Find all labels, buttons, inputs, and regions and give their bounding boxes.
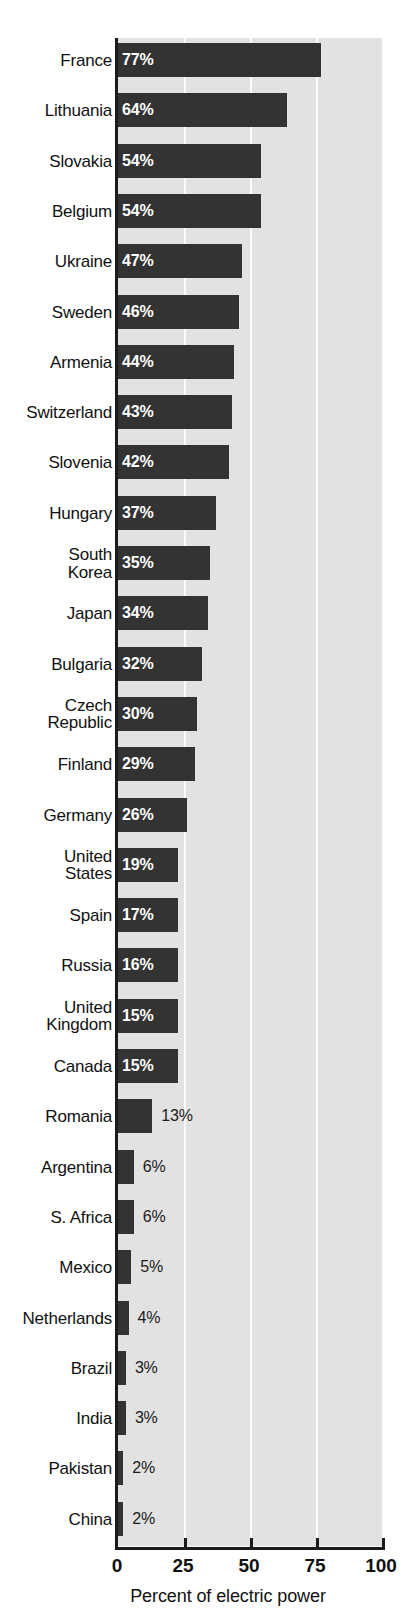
bar-row: Slovakia54% [0, 144, 420, 178]
bar-value-label: 15% [122, 1007, 153, 1024]
bar-value-label: 3% [135, 1359, 158, 1376]
bar-value-label: 77% [122, 51, 153, 68]
x-tick-label-50: 50 [219, 1556, 279, 1576]
bar-value-label: 42% [122, 453, 153, 470]
bar-row: Russia16% [0, 948, 420, 982]
category-label: Ukraine [0, 253, 112, 270]
bar-row: Germany26% [0, 798, 420, 832]
x-tick-label-100: 100 [351, 1556, 411, 1576]
bar-row: France77% [0, 43, 420, 77]
bar-row: Sweden46% [0, 295, 420, 329]
bar-row: Argentina6% [0, 1150, 420, 1184]
bar-value-label: 64% [122, 101, 153, 118]
bar-value-label: 35% [122, 554, 153, 571]
x-axis-title: Percent of electric power [0, 1586, 420, 1606]
bar-row: United Kingdom15% [0, 999, 420, 1033]
bar-row: Brazil3% [0, 1351, 420, 1385]
bar-row: Bulgaria32% [0, 647, 420, 681]
category-label: Russia [0, 957, 112, 974]
category-label: United States [0, 848, 112, 883]
bar [118, 1250, 131, 1284]
bar-value-label: 32% [122, 655, 153, 672]
bar [118, 1099, 152, 1133]
bar-value-label: 4% [138, 1309, 161, 1326]
bar [118, 1401, 126, 1435]
category-label: Sweden [0, 304, 112, 321]
bar-value-label: 54% [122, 152, 153, 169]
bar-value-label: 43% [122, 403, 153, 420]
category-label: Switzerland [0, 404, 112, 421]
bar-row: Slovenia42% [0, 445, 420, 479]
bar-row: Spain17% [0, 898, 420, 932]
bar-row: Armenia44% [0, 345, 420, 379]
bar-value-label: 3% [135, 1409, 158, 1426]
bar-value-label: 13% [161, 1107, 192, 1124]
bar [118, 1451, 123, 1485]
bar-value-label: 54% [122, 202, 153, 219]
category-label: Romania [0, 1108, 112, 1125]
bar-row: Japan34% [0, 596, 420, 630]
category-label: Germany [0, 807, 112, 824]
category-label: Slovenia [0, 454, 112, 471]
category-label: Netherlands [0, 1310, 112, 1327]
category-label: Czech Republic [0, 697, 112, 732]
x-tick-label-0: 0 [87, 1556, 147, 1576]
bar-row: Hungary37% [0, 496, 420, 530]
bar-row: Switzerland43% [0, 395, 420, 429]
bar-row: India3% [0, 1401, 420, 1435]
bar-row: Czech Republic30% [0, 697, 420, 731]
bar-row: Pakistan2% [0, 1451, 420, 1485]
bar-value-label: 46% [122, 303, 153, 320]
bar-row: South Korea35% [0, 546, 420, 580]
bar-row: Belgium54% [0, 194, 420, 228]
bar-value-label: 16% [122, 956, 153, 973]
bar-value-label: 30% [122, 705, 153, 722]
x-tick-label-25: 25 [153, 1556, 213, 1576]
bar-row: Mexico5% [0, 1250, 420, 1284]
category-label: South Korea [0, 546, 112, 581]
category-label: France [0, 52, 112, 69]
category-label: Brazil [0, 1360, 112, 1377]
bar-value-label: 44% [122, 353, 153, 370]
category-label: United Kingdom [0, 999, 112, 1034]
bar-value-label: 2% [132, 1510, 155, 1527]
bar-value-label: 19% [122, 856, 153, 873]
bar-value-label: 2% [132, 1459, 155, 1476]
bar-row: Ukraine47% [0, 244, 420, 278]
category-label: Spain [0, 907, 112, 924]
x-tick-mark-75 [316, 1538, 319, 1548]
y-axis-line [115, 38, 118, 1550]
bar-value-label: 5% [140, 1258, 163, 1275]
category-label: Finland [0, 756, 112, 773]
bar [118, 1502, 123, 1536]
category-label: Mexico [0, 1259, 112, 1276]
bar-row: China2% [0, 1502, 420, 1536]
x-tick-mark-0 [115, 1538, 118, 1550]
category-label: S. Africa [0, 1209, 112, 1226]
bar-row: Canada15% [0, 1049, 420, 1083]
category-label: Armenia [0, 354, 112, 371]
bar-value-label: 47% [122, 252, 153, 269]
category-label: Japan [0, 605, 112, 622]
x-tick-mark-50 [250, 1538, 253, 1548]
category-label: Argentina [0, 1159, 112, 1176]
bar-value-label: 17% [122, 906, 153, 923]
bar [118, 1200, 134, 1234]
bar-row: Finland29% [0, 747, 420, 781]
bar [118, 1351, 126, 1385]
category-label: Hungary [0, 505, 112, 522]
category-label: Belgium [0, 203, 112, 220]
x-tick-mark-100 [382, 1538, 385, 1550]
bar-row: United States19% [0, 848, 420, 882]
bar [118, 1150, 134, 1184]
bar-value-label: 6% [143, 1208, 166, 1225]
category-label: Slovakia [0, 153, 112, 170]
category-label: India [0, 1410, 112, 1427]
nuclear-share-bar-chart: France77%Lithuania64%Slovakia54%Belgium5… [0, 0, 420, 1624]
bar-value-label: 34% [122, 604, 153, 621]
x-tick-label-75: 75 [285, 1556, 345, 1576]
bar-value-label: 15% [122, 1057, 153, 1074]
category-label: Bulgaria [0, 656, 112, 673]
category-label: Canada [0, 1058, 112, 1075]
bar-value-label: 29% [122, 755, 153, 772]
